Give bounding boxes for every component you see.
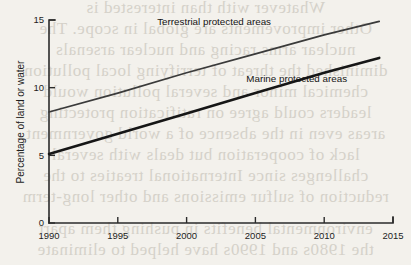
y-tick-label: 0 bbox=[39, 217, 44, 228]
y-tick-label: 10 bbox=[33, 82, 44, 93]
y-axis-line bbox=[49, 20, 55, 223]
y-axis-title: Percentage of land or water bbox=[15, 60, 26, 184]
series-label-terrestrial-protected-areas: Terrestrial protected areas bbox=[157, 16, 271, 27]
x-tick-label: 2005 bbox=[245, 230, 266, 241]
series-label-marine-protected-areas: Marine protected areas bbox=[246, 73, 347, 84]
series-line-terrestrial-protected-areas bbox=[49, 21, 379, 112]
y-axis-ticks bbox=[49, 20, 55, 223]
x-tick-label: 2010 bbox=[314, 230, 335, 241]
x-axis-tick-labels: 199019952000200520102015 bbox=[38, 230, 403, 241]
x-axis-ticks bbox=[49, 217, 393, 223]
chart-figure: Whatever with than interested is Other i… bbox=[0, 0, 411, 265]
x-axis-line bbox=[49, 217, 393, 223]
y-tick-label: 5 bbox=[39, 150, 44, 161]
line-chart-plot: 051015 199019952000200520102015 Percenta… bbox=[0, 0, 411, 265]
x-tick-label: 2000 bbox=[176, 230, 197, 241]
y-axis-tick-labels: 051015 bbox=[33, 14, 44, 228]
x-tick-label: 1990 bbox=[38, 230, 59, 241]
x-tick-label: 1995 bbox=[107, 230, 128, 241]
y-tick-label: 15 bbox=[33, 14, 44, 25]
x-tick-label: 2015 bbox=[382, 230, 403, 241]
